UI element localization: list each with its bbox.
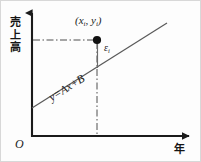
- y-axis-label-char-3: 高: [8, 42, 23, 55]
- y-axis-label-char-1: 売: [8, 17, 23, 30]
- data-point-label: (xi, yi): [75, 15, 102, 26]
- point-label-y-subscript: i: [96, 20, 98, 28]
- epsilon-subscript: i: [108, 47, 110, 54]
- point-label-x-subscript: i: [84, 20, 86, 28]
- point-label-x: x: [79, 14, 84, 26]
- data-point-marker: [93, 36, 101, 44]
- x-axis-label: 年: [174, 144, 185, 155]
- point-label-close: ): [98, 14, 102, 26]
- regression-diagram-figure: 売 上 高 年 O (xi, yi) εi y=Ax+B: [0, 0, 201, 162]
- origin-label: O: [15, 138, 24, 150]
- y-axis-label: 売 上 高: [8, 17, 23, 55]
- residual-label: εi: [104, 43, 110, 53]
